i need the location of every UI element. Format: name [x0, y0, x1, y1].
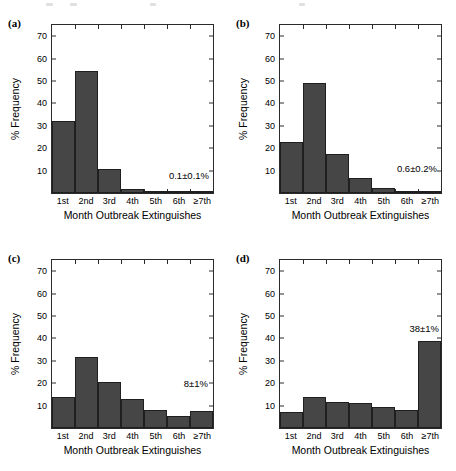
- panel-d-y-axis-label: % Frequency: [237, 313, 249, 375]
- panel-c-bars: [52, 260, 213, 428]
- panel-a-y-tick-10: 10: [37, 166, 47, 176]
- bar-slot: [167, 25, 190, 193]
- panel-d-x-tick-label-3: 4th: [349, 431, 372, 441]
- bar-slot: [349, 260, 372, 428]
- bar-slot: [121, 25, 144, 193]
- panel-d-series-note: 38±1%: [409, 323, 439, 334]
- panel-b-x-tick-label-6: ≥7th: [419, 196, 442, 206]
- panel-d-x-tick-label-0: 1st: [279, 431, 302, 441]
- panel-b-x-tick-label-3: 4th: [349, 196, 372, 206]
- bar-slot: [190, 25, 213, 193]
- bar-slot: [349, 25, 372, 193]
- panel-a-y-tick-40: 40: [37, 98, 47, 108]
- bar-5th: [144, 191, 167, 193]
- panel-c-x-tick-label-6: ≥7th: [191, 431, 214, 441]
- bar-slot: [75, 260, 98, 428]
- bar-2nd: [75, 357, 98, 428]
- bar-6th: [395, 191, 418, 193]
- panel-d-label: (d): [236, 252, 249, 264]
- panel-a-plot-area: 10203040506070 0.1±0.1%: [51, 24, 214, 194]
- bar-≥7th: [190, 411, 213, 428]
- panel-a-series-note: 0.1±0.1%: [169, 170, 209, 181]
- panel-d-x-tick-label-1: 2nd: [302, 431, 325, 441]
- bar-1st: [52, 121, 75, 193]
- bar-slot: [144, 260, 167, 428]
- bar-4th: [121, 189, 144, 193]
- bar-1st: [52, 397, 75, 428]
- panel-b-x-tick-label-2: 3rd: [326, 196, 349, 206]
- panel-a-x-axis-label: Month Outbreak Extinguishes: [51, 209, 214, 221]
- panel-d-y-tick-50: 50: [265, 311, 275, 321]
- bar-2nd: [303, 397, 326, 428]
- panel-c-x-tick-label-4: 5th: [144, 431, 167, 441]
- panel-c-x-axis-label: Month Outbreak Extinguishes: [51, 444, 214, 456]
- panel-b: (b) Week=2 % Frequency 10203040506070 0.…: [228, 0, 456, 235]
- panel-a-y-tick-50: 50: [37, 76, 47, 86]
- panel-c-x-tick-label-3: 4th: [121, 431, 144, 441]
- panel-b-x-tick-label-0: 1st: [279, 196, 302, 206]
- panel-a-x-tick-labels: 1st2nd3rd4th5th6th≥7th: [51, 196, 214, 206]
- figure-panel-grid: (a) Week=1 % Frequency 10203040506070 0.…: [0, 0, 456, 471]
- bar-3rd: [98, 382, 121, 428]
- bar-5th: [372, 188, 395, 193]
- panel-a-x-tick-label-0: 1st: [51, 196, 74, 206]
- panel-d-y-tick-10: 10: [265, 401, 275, 411]
- panel-a-x-tick-label-6: ≥7th: [191, 196, 214, 206]
- panel-d-bars: [280, 260, 441, 428]
- bar-5th: [144, 410, 167, 428]
- bar-slot: [303, 25, 326, 193]
- panel-b-y-tick-70: 70: [265, 31, 275, 41]
- bar-4th: [121, 399, 144, 428]
- panel-b-x-axis-label: Month Outbreak Extinguishes: [279, 209, 442, 221]
- panel-a: (a) Week=1 % Frequency 10203040506070 0.…: [0, 0, 228, 235]
- panel-c-y-tick-20: 20: [37, 378, 47, 388]
- panel-c-x-tick-label-5: 6th: [167, 431, 190, 441]
- panel-b-y-tick-10: 10: [265, 166, 275, 176]
- panel-a-y-axis-label: % Frequency: [9, 78, 21, 140]
- panel-a-y-tick-20: 20: [37, 143, 47, 153]
- panel-a-x-tick-label-3: 4th: [121, 196, 144, 206]
- panel-d-x-tick-label-2: 3rd: [326, 431, 349, 441]
- bar-slot: [167, 260, 190, 428]
- bar-3rd: [326, 154, 349, 193]
- bar-slot: [372, 260, 395, 428]
- bar-slot: [326, 25, 349, 193]
- bar-slot: [395, 260, 418, 428]
- bar-slot: [98, 25, 121, 193]
- panel-b-y-tick-60: 60: [265, 54, 275, 64]
- panel-d-y-tick-40: 40: [265, 333, 275, 343]
- panel-a-y-tick-60: 60: [37, 54, 47, 64]
- panel-a-label: (a): [8, 17, 21, 29]
- bar-≥7th: [418, 191, 441, 193]
- bar-slot: [52, 25, 75, 193]
- bar-slot: [303, 260, 326, 428]
- bar-4th: [349, 403, 372, 428]
- panel-c-series-note: 8±1%: [184, 378, 208, 389]
- panel-c-y-tick-10: 10: [37, 401, 47, 411]
- panel-c-y-tick-40: 40: [37, 333, 47, 343]
- bar-≥7th: [190, 191, 213, 193]
- bar-6th: [167, 416, 190, 428]
- bar-slot: [98, 260, 121, 428]
- panel-d-y-tick-20: 20: [265, 378, 275, 388]
- panel-d: (d) Week=8 % Frequency 10203040506070 38…: [228, 235, 456, 471]
- panel-c-label: (c): [8, 252, 20, 264]
- bar-6th: [395, 410, 418, 428]
- bar-slot: [280, 25, 303, 193]
- bar-6th: [167, 191, 190, 193]
- panel-a-x-tick-label-1: 2nd: [74, 196, 97, 206]
- bar-4th: [349, 178, 372, 193]
- panel-c-y-tick-70: 70: [37, 266, 47, 276]
- panel-c-y-tick-50: 50: [37, 311, 47, 321]
- bar-1st: [280, 412, 303, 428]
- bar-slot: [52, 260, 75, 428]
- bar-2nd: [303, 83, 326, 193]
- panel-a-y-tick-70: 70: [37, 31, 47, 41]
- panel-b-y-tick-20: 20: [265, 143, 275, 153]
- panel-c-y-tick-30: 30: [37, 356, 47, 366]
- bar-slot: [418, 260, 441, 428]
- panel-c: (c) Week=4 % Frequency 10203040506070 8±…: [0, 235, 228, 471]
- panel-b-x-tick-label-1: 2nd: [302, 196, 325, 206]
- bar-slot: [144, 25, 167, 193]
- panel-b-x-tick-labels: 1st2nd3rd4th5th6th≥7th: [279, 196, 442, 206]
